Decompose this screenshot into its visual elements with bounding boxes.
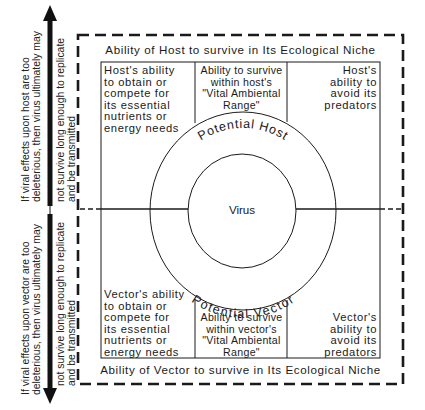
potential-host-label: Potential Host: [195, 117, 291, 143]
virus-label: Virus: [202, 204, 282, 216]
vector-side-note-left: If viral effects upon vector are too del…: [20, 224, 43, 395]
host-nutrient-ability-cell: Host's ability to obtain or compete for …: [104, 65, 179, 135]
vector-predator-avoidance-cell: Vector's ability to avoid its predators: [288, 312, 377, 358]
host-side-note-right: not survive long enough to replicate and…: [55, 38, 78, 202]
vector-nutrient-ability-cell: Vector's ability to obtain or compete fo…: [104, 289, 185, 359]
host-predator-avoidance-cell: Host's ability to avoid its predators: [288, 65, 377, 111]
host-niche-title: Ability of Host to survive in Its Ecolog…: [78, 44, 403, 56]
vector-side-note-right: not survive long enough to replicate and…: [55, 222, 78, 386]
vector-vital-range-cell: Ability to survive within vector's "Vita…: [196, 312, 287, 358]
host-side-note-left: If viral effects upon host are too delet…: [20, 31, 43, 202]
host-vital-range-cell: Ability to survive within host's "Vital …: [196, 65, 287, 111]
vector-niche-title: Ability of Vector to survive in Its Ecol…: [78, 364, 403, 376]
